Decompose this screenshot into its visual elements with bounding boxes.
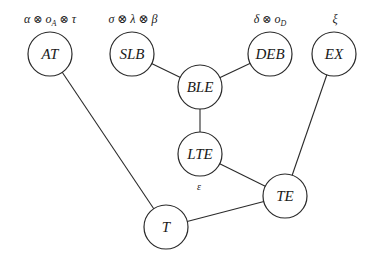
node-ble-label: BLE (187, 79, 214, 95)
node-slb: SLB (110, 32, 154, 76)
node-t: T (144, 205, 188, 249)
annotation-lte: ε (197, 181, 201, 192)
node-te-label: TE (276, 188, 294, 204)
node-slb-label: SLB (119, 46, 144, 62)
annotation-ex: ξ (332, 12, 338, 26)
node-deb-label: DEB (254, 46, 284, 62)
bayesian-network-diagram: AT SLB DEB EX BLE LTE TE T α ⊗ oA ⊗ τ σ … (0, 0, 370, 259)
annotation-deb: δ ⊗ oD (254, 12, 287, 28)
node-lte-label: LTE (186, 146, 213, 162)
node-te: TE (263, 174, 307, 218)
node-ble: BLE (178, 65, 222, 109)
annotation-slb: σ ⊗ λ ⊗ β (108, 12, 157, 26)
annotation-at: α ⊗ oA ⊗ τ (24, 12, 77, 29)
edge-at-t (50, 54, 166, 227)
node-at: AT (28, 32, 72, 76)
node-deb: DEB (248, 32, 292, 76)
node-lte: LTE (178, 132, 222, 176)
node-ex-label: EX (324, 46, 344, 62)
node-at-label: AT (41, 46, 61, 62)
node-ex: EX (312, 32, 356, 76)
